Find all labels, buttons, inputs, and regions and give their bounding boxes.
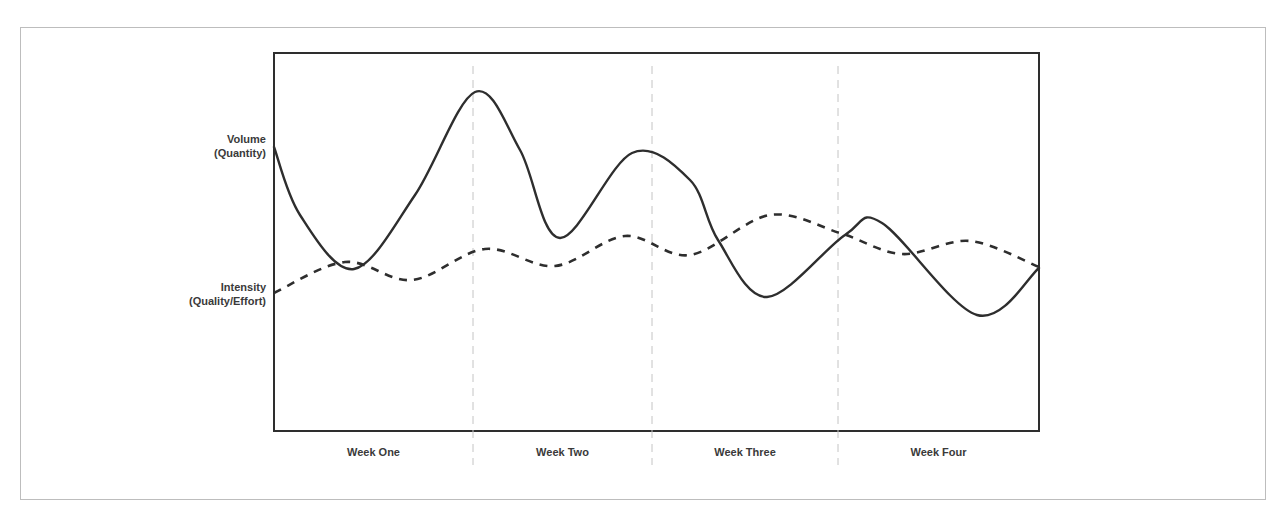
y-label-volume-line2: (Quantity)	[214, 146, 266, 160]
plot-area	[274, 53, 1039, 431]
x-label-week-two: Week Two	[473, 446, 652, 458]
y-label-intensity: Intensity (Quality/Effort)	[189, 280, 266, 308]
y-label-intensity-line2: (Quality/Effort)	[189, 294, 266, 308]
x-label-week-four: Week Four	[838, 446, 1039, 458]
y-label-volume: Volume (Quantity)	[214, 132, 266, 160]
intensity-series-line	[274, 214, 1039, 293]
week-dividers	[473, 66, 838, 465]
x-label-week-three: Week Three	[652, 446, 838, 458]
y-label-intensity-line1: Intensity	[189, 280, 266, 294]
y-label-volume-line1: Volume	[214, 132, 266, 146]
volume-series-line	[274, 91, 1039, 316]
x-label-week-one: Week One	[274, 446, 473, 458]
